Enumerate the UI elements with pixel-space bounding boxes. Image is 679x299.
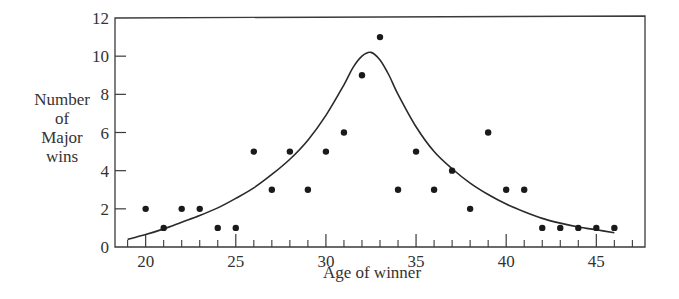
data-point — [233, 225, 239, 231]
data-point — [593, 225, 599, 231]
data-point — [431, 187, 437, 193]
data-point — [142, 206, 148, 212]
y-axis-title: Number of Major wins — [22, 90, 102, 166]
data-point — [215, 225, 221, 231]
plot-border — [115, 16, 645, 247]
data-point — [575, 225, 581, 231]
y-axis-title-line: of — [22, 109, 102, 128]
data-point — [503, 187, 509, 193]
x-tick-label: 25 — [227, 252, 244, 271]
data-point — [467, 206, 473, 212]
data-point — [485, 129, 491, 135]
data-point — [395, 187, 401, 193]
data-points — [142, 34, 617, 231]
x-tick-label: 20 — [137, 252, 154, 271]
data-point — [413, 148, 419, 154]
data-point — [160, 225, 166, 231]
data-point — [539, 225, 545, 231]
data-point — [305, 187, 311, 193]
y-tick-label: 10 — [92, 47, 109, 66]
x-tick-label: 45 — [588, 252, 605, 271]
x-axis-title: Age of winner — [323, 263, 422, 282]
data-point — [287, 148, 293, 154]
data-point — [197, 206, 203, 212]
y-axis-title-line: Number — [22, 90, 102, 109]
y-tick-label: 2 — [101, 200, 110, 219]
y-axis-title-line: wins — [22, 147, 102, 166]
data-point — [269, 187, 275, 193]
data-point — [359, 72, 365, 78]
data-point — [341, 129, 347, 135]
data-point — [521, 187, 527, 193]
data-point — [611, 225, 617, 231]
plot-frame — [115, 16, 645, 247]
x-tick-label: 40 — [498, 252, 515, 271]
data-point — [557, 225, 563, 231]
y-axis-title-line: Major — [22, 128, 102, 147]
y-tick-label: 0 — [101, 238, 110, 257]
data-point — [179, 206, 185, 212]
data-point — [323, 148, 329, 154]
data-point — [449, 167, 455, 173]
data-point — [251, 148, 257, 154]
data-point — [377, 34, 383, 40]
y-tick-label: 12 — [92, 9, 109, 28]
